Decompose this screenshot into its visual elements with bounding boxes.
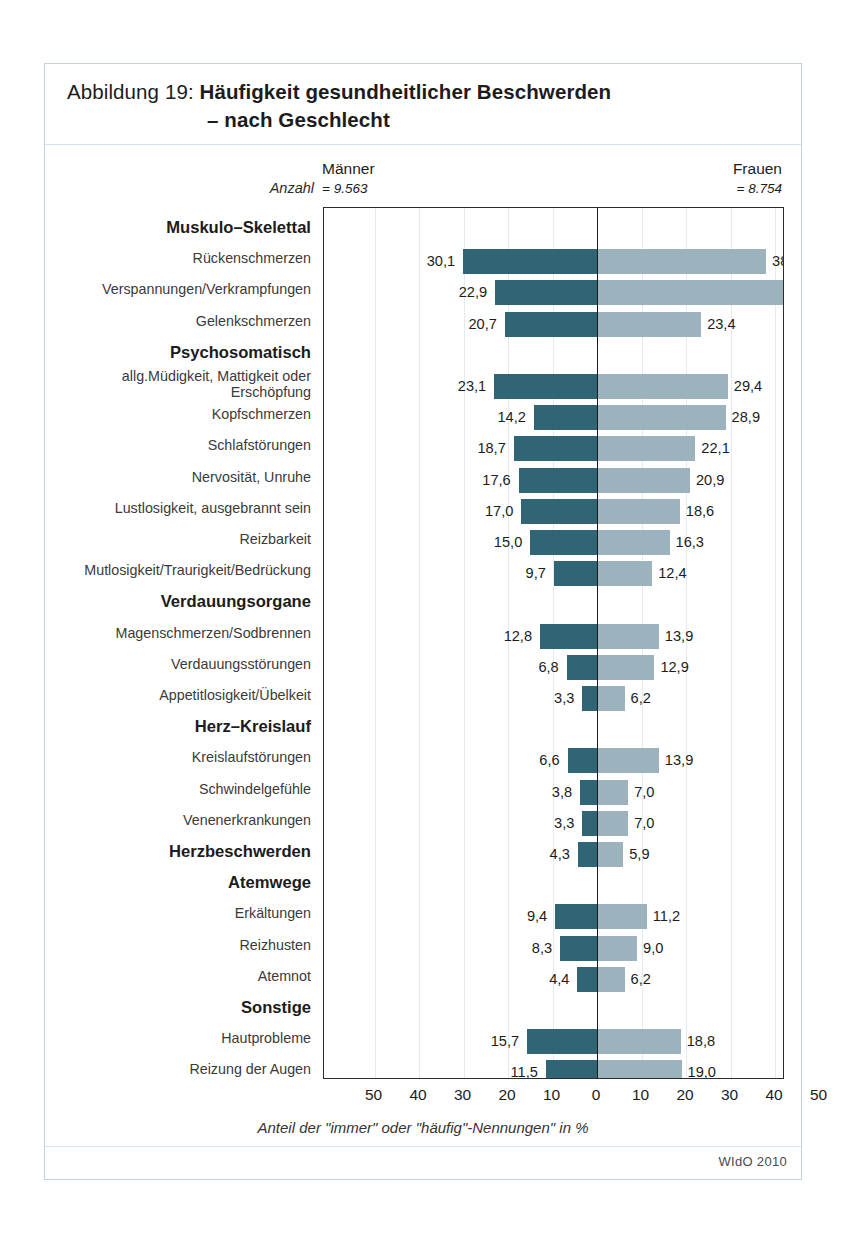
bar-frauen [597, 312, 701, 337]
figure-title-text: Häufigkeit gesundheitlicher Beschwerden [199, 80, 611, 103]
value-label-frauen: 23,4 [707, 312, 735, 337]
zero-axis-line [597, 208, 598, 1078]
value-label-maenner: 14,2 [497, 405, 525, 430]
value-label-maenner: 18,7 [477, 436, 505, 461]
value-label-maenner: 20,7 [468, 312, 496, 337]
bar-maenner [546, 1060, 597, 1079]
bar-maenner [578, 842, 597, 867]
value-label-maenner: 30,1 [427, 249, 455, 274]
axis-tick: 40 [765, 1086, 782, 1104]
axis-tick: 10 [632, 1086, 649, 1104]
value-label-frauen: 29,4 [734, 374, 762, 399]
value-label-maenner: 3,8 [552, 780, 572, 805]
category-label: Mutlosigkeit/Traurigkeit/Bedrückung [84, 562, 311, 579]
plot-area: 30,138,022,942,120,723,423,129,414,228,9… [323, 207, 784, 1079]
x-axis-caption: Anteil der "immer" oder "häufig"-Nennung… [45, 1119, 801, 1136]
value-label-maenner: 3,3 [554, 811, 574, 836]
section-label: Muskulo–Skelettal [166, 219, 311, 236]
gridline [731, 208, 732, 1078]
figure-title-block: Abbildung 19: Häufigkeit gesundheitliche… [45, 64, 801, 145]
category-label: Magenschmerzen/Sodbrennen [115, 625, 311, 642]
axis-tick: 30 [721, 1086, 738, 1104]
value-label-frauen: 6,2 [631, 967, 651, 992]
bar-maenner [540, 624, 597, 649]
category-label: Reizung der Augen [189, 1061, 311, 1078]
legend-maenner-count: = 9.563 [322, 181, 367, 196]
category-label: Kreislaufstörungen [192, 749, 311, 766]
value-label-maenner: 23,1 [458, 374, 486, 399]
source-note: WIdO 2010 [719, 1154, 787, 1169]
category-label: Reizbarkeit [239, 531, 311, 548]
gridline [375, 208, 376, 1078]
figure-number: Abbildung 19: [67, 80, 199, 103]
bar-frauen [597, 686, 625, 711]
value-label-frauen: 7,0 [634, 780, 654, 805]
axis-tick: 50 [810, 1086, 827, 1104]
category-label: Hautprobleme [221, 1030, 311, 1047]
legend-frauen: Frauen [733, 160, 782, 178]
category-label: allg.Müdigkeit, Mattigkeit oder Erschöpf… [45, 368, 311, 400]
bar-maenner [527, 1029, 597, 1054]
figure-panel: Abbildung 19: Häufigkeit gesundheitliche… [44, 63, 802, 1180]
value-label-frauen: 13,9 [665, 748, 693, 773]
bar-maenner [505, 312, 597, 337]
category-label: Lustlosigkeit, ausgebrannt sein [115, 500, 311, 517]
category-label: Verdauungsstörungen [171, 656, 311, 673]
value-label-frauen: 22,1 [701, 436, 729, 461]
value-label-frauen: 12,4 [658, 561, 686, 586]
category-label: Rückenschmerzen [193, 250, 311, 267]
value-label-frauen: 16,3 [676, 530, 704, 555]
value-label-frauen: 18,6 [686, 499, 714, 524]
value-label-maenner: 11,5 [511, 1060, 538, 1079]
category-label: Verspannungen/Verkrampfungen [102, 281, 311, 298]
bar-maenner [530, 530, 597, 555]
bar-frauen [597, 468, 690, 493]
bar-maenner [560, 936, 597, 961]
category-label: Appetitlosigkeit/Übelkeit [159, 687, 311, 704]
bar-maenner [580, 780, 597, 805]
value-label-frauen: 18,8 [687, 1029, 715, 1054]
bar-frauen [597, 405, 726, 430]
value-label-maenner: 6,8 [538, 655, 558, 680]
bar-frauen [597, 967, 625, 992]
bar-maenner [582, 811, 597, 836]
category-label-column: Muskulo–SkelettalRückenschmerzenVerspann… [45, 207, 323, 1079]
axis-tick: 10 [543, 1086, 560, 1104]
value-label-frauen: 13,9 [665, 624, 693, 649]
value-label-frauen: 7,0 [634, 811, 654, 836]
bar-frauen [597, 249, 766, 274]
section-label: Verdauungsorgane [161, 593, 311, 610]
chart-header: Anzahl Männer = 9.563 Frauen = 8.754 [45, 160, 801, 208]
category-label: Nervosität, Unruhe [192, 469, 311, 486]
value-label-maenner: 3,3 [554, 686, 574, 711]
value-label-maenner: 9,7 [526, 561, 546, 586]
bar-frauen [597, 280, 784, 305]
value-label-frauen: 12,9 [660, 655, 688, 680]
value-label-maenner: 6,6 [539, 748, 559, 773]
axis-tick: 0 [592, 1086, 601, 1104]
axis-tick: 40 [409, 1086, 426, 1104]
value-label-frauen: 11,2 [653, 904, 680, 929]
value-label-maenner: 22,9 [459, 280, 487, 305]
bar-frauen [597, 655, 654, 680]
section-label: Sonstige [241, 999, 311, 1016]
bar-frauen [597, 1060, 682, 1079]
value-label-frauen: 38,0 [772, 249, 784, 274]
legend-frauen-count: = 8.754 [737, 181, 782, 196]
value-label-maenner: 9,4 [527, 904, 547, 929]
section-label: Herz–Kreislauf [195, 718, 311, 735]
bar-frauen [597, 374, 728, 399]
bar-maenner [582, 686, 597, 711]
bar-frauen [597, 748, 659, 773]
value-label-frauen: 5,9 [629, 842, 649, 867]
bar-maenner [494, 374, 597, 399]
category-label: Kopfschmerzen [212, 406, 311, 423]
category-label: Schwindelgefühle [199, 781, 311, 798]
category-label: Erkältungen [235, 905, 311, 922]
category-label: Reizhusten [239, 937, 311, 954]
axis-tick: 30 [454, 1086, 471, 1104]
value-label-maenner: 12,8 [504, 624, 532, 649]
category-label: Venenerkrankungen [183, 812, 311, 829]
bar-maenner [568, 748, 597, 773]
section-label: Atemwege [228, 874, 311, 891]
